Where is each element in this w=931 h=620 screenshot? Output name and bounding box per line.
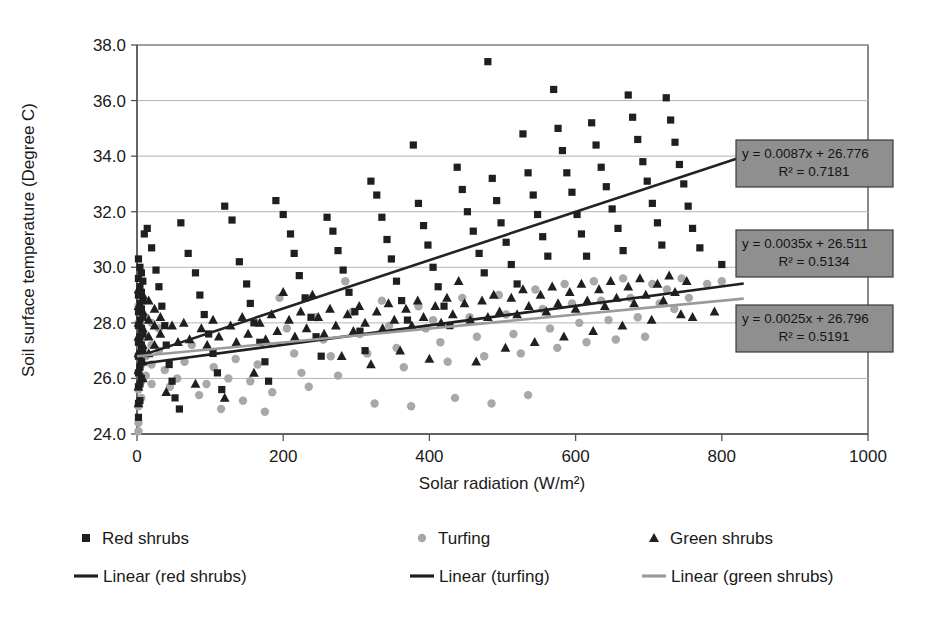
data-point-square	[563, 169, 570, 176]
legend-label: Linear (turfing)	[439, 567, 550, 586]
data-point-square	[221, 203, 228, 210]
data-point-square	[158, 303, 165, 310]
data-point-square	[383, 236, 390, 243]
data-point-square	[345, 289, 352, 296]
data-point-triangle	[506, 293, 516, 302]
data-point-triangle	[296, 307, 306, 316]
data-point-circle	[718, 277, 726, 285]
legend-marker-circle	[418, 534, 426, 542]
x-tick-label: 600	[561, 447, 589, 466]
data-point-square	[696, 244, 703, 251]
data-point-triangle	[688, 312, 698, 321]
data-point-circle	[305, 383, 313, 391]
data-point-square	[329, 228, 336, 235]
data-point-square	[139, 278, 146, 285]
legend-item[interactable]: Linear (turfing)	[410, 567, 550, 586]
legend-item[interactable]: Linear (green shrubs)	[642, 567, 834, 586]
data-point-square	[680, 180, 687, 187]
data-point-square	[196, 291, 203, 298]
data-point-square	[544, 253, 551, 260]
data-point-square	[280, 211, 287, 218]
data-point-square	[192, 269, 199, 276]
data-point-triangle	[547, 282, 557, 291]
data-point-circle	[224, 374, 232, 382]
data-point-circle	[436, 338, 444, 346]
data-point-square	[614, 225, 621, 232]
data-point-square	[489, 175, 496, 182]
data-point-square	[649, 200, 656, 207]
data-point-square	[484, 58, 491, 65]
data-point-square	[404, 316, 411, 323]
legend-item[interactable]: Turfing	[418, 529, 490, 548]
annotation-green-shrubs: y = 0.0025x + 26.796 R² = 0.5191	[736, 305, 893, 352]
data-point-triangle	[401, 304, 411, 313]
data-point-circle	[400, 363, 408, 371]
y-tick-label: 36.0	[93, 92, 126, 111]
data-point-square	[663, 94, 670, 101]
data-point-square	[318, 353, 325, 360]
annotation-equation: y = 0.0025x + 26.796	[742, 311, 869, 326]
data-point-triangle	[290, 332, 300, 341]
data-point-square	[138, 375, 145, 382]
data-point-triangle	[710, 307, 720, 316]
data-point-square	[554, 125, 561, 132]
data-point-square	[476, 250, 483, 257]
data-point-square	[243, 280, 250, 287]
data-point-triangle	[302, 323, 312, 332]
data-point-circle	[575, 319, 583, 327]
data-point-circle	[327, 352, 335, 360]
data-point-square	[144, 225, 151, 232]
y-tick-label: 30.0	[93, 258, 126, 277]
data-point-circle	[517, 349, 525, 357]
data-point-square	[138, 305, 145, 312]
data-point-square	[435, 283, 442, 290]
data-point-triangle	[156, 312, 166, 321]
data-point-square	[534, 211, 541, 218]
data-point-circle	[582, 338, 590, 346]
data-point-square	[539, 233, 546, 240]
annotation-r2: R² = 0.5134	[779, 254, 850, 269]
y-tick-label: 24.0	[93, 425, 126, 444]
annotation-turfing: y = 0.0035x + 26.511 R² = 0.5134	[736, 230, 893, 277]
legend-item[interactable]: Green shrubs	[649, 529, 773, 548]
data-point-circle	[202, 380, 210, 388]
data-point-square	[459, 186, 466, 193]
data-point-square	[334, 247, 341, 254]
data-point-circle	[487, 399, 495, 407]
data-point-circle	[195, 391, 203, 399]
data-point-circle	[261, 408, 269, 416]
data-point-square	[177, 219, 184, 226]
legend-item[interactable]: Linear (red shrubs)	[74, 567, 247, 586]
data-point-circle	[253, 360, 261, 368]
y-axis-ticks: 24.026.028.030.032.034.036.038.0	[93, 36, 137, 444]
data-point-square	[644, 178, 651, 185]
data-point-triangle	[430, 301, 440, 310]
data-point-square	[135, 414, 142, 421]
data-point-square	[166, 361, 173, 368]
legend-item[interactable]: Red shrubs	[82, 529, 189, 548]
data-point-square	[373, 191, 380, 198]
data-point-circle	[509, 330, 517, 338]
data-point-circle	[612, 335, 620, 343]
data-point-square	[138, 289, 145, 296]
data-point-square	[161, 322, 168, 329]
data-point-square	[634, 136, 641, 143]
data-point-square	[135, 255, 142, 262]
x-tick-label: 200	[269, 447, 297, 466]
data-point-square	[718, 261, 725, 268]
data-point-square	[261, 358, 268, 365]
data-point-triangle	[425, 354, 435, 363]
annotation-r2: R² = 0.5191	[779, 329, 850, 344]
data-point-square	[323, 214, 330, 221]
data-point-square	[378, 214, 385, 221]
x-tick-label: 800	[708, 447, 736, 466]
data-point-square	[603, 183, 610, 190]
data-point-triangle	[442, 293, 452, 302]
data-point-triangle	[419, 312, 429, 321]
data-point-circle	[560, 280, 568, 288]
data-point-triangle	[389, 315, 399, 324]
data-point-square	[470, 228, 477, 235]
data-point-triangle	[325, 304, 335, 313]
data-point-square	[620, 247, 627, 254]
data-point-triangle	[360, 318, 370, 327]
